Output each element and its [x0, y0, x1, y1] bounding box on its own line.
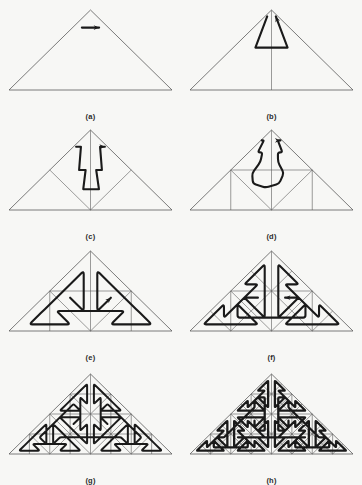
panel-caption-g: (g)	[0, 477, 181, 485]
space-filling-curve-d	[252, 140, 283, 187]
panel-caption-c: (c)	[0, 233, 181, 241]
triangle-diagram-c	[0, 122, 181, 234]
panel-f: (f)	[181, 243, 362, 362]
panel-e: (e)	[0, 243, 181, 362]
panel-h: (h)	[181, 366, 362, 485]
panel-b: (b)	[181, 2, 362, 121]
panel-caption-e: (e)	[0, 354, 181, 362]
triangle-diagram-f	[181, 243, 362, 355]
panel-caption-f: (f)	[181, 354, 362, 362]
construction-grid-c	[50, 130, 132, 210]
triangle-diagram-a	[0, 2, 181, 114]
panel-caption-b: (b)	[181, 113, 362, 121]
triangle-diagram-d	[181, 122, 362, 234]
triangle-diagram-b	[181, 2, 362, 114]
construction-grid-f	[210, 251, 332, 331]
panel-a: (a)	[0, 2, 181, 121]
triangle-diagram-g	[0, 366, 181, 478]
panel-c: (c)	[0, 122, 181, 241]
panel-caption-a: (a)	[0, 113, 181, 121]
construction-grid-d	[231, 130, 313, 210]
triangle-diagram-h	[181, 366, 362, 478]
panel-caption-d: (d)	[181, 233, 362, 241]
panel-caption-h: (h)	[181, 477, 362, 485]
construction-grid-g	[29, 374, 151, 454]
triangle-outline-a	[9, 10, 172, 90]
panel-g: (g)	[0, 366, 181, 485]
triangle-diagram-e	[0, 243, 181, 355]
panel-d: (d)	[181, 122, 362, 241]
